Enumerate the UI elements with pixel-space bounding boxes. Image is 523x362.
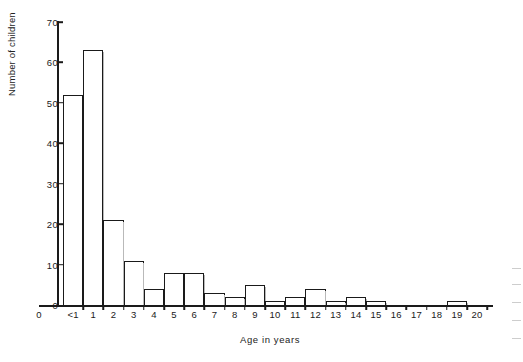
y-tick-mark: [58, 21, 63, 23]
histogram-bar: [144, 289, 164, 305]
x-tick-label: 9: [252, 309, 257, 320]
x-tick-label: 5: [171, 309, 176, 320]
histogram-bar: [164, 273, 184, 305]
histogram-bar: [245, 285, 265, 305]
x-tick-mark: [446, 305, 448, 310]
x-tick-mark: [406, 305, 408, 310]
x-tick-label: 10: [270, 309, 281, 320]
x-tick-mark: [426, 305, 428, 310]
x-tick-label: 4: [151, 309, 156, 320]
x-tick-mark: [183, 305, 185, 310]
x-tick-label: 3: [131, 309, 136, 320]
x-tick-mark: [123, 305, 125, 310]
x-tick-label: 8: [232, 309, 237, 320]
x-tick-mark: [305, 305, 307, 310]
x-tick-label: 19: [451, 309, 462, 320]
histogram-bar: [184, 273, 204, 305]
x-tick-label: 17: [411, 309, 422, 320]
x-tick-mark: [264, 305, 266, 310]
x-axis-title: Age in years: [240, 334, 300, 345]
histogram-bar: [124, 261, 144, 305]
histogram-bar: [285, 297, 305, 305]
x-tick-label: 1: [91, 309, 96, 320]
y-tick-mark: [58, 62, 63, 64]
histogram-bar: [366, 301, 386, 305]
y-tick-label: 70: [36, 17, 58, 28]
histogram-bar: [204, 293, 224, 305]
histogram-bar: [63, 95, 83, 305]
x-tick-label: 18: [431, 309, 442, 320]
histogram-bar: [103, 220, 123, 305]
x-tick-label: 16: [391, 309, 402, 320]
x-tick-label: 13: [330, 309, 341, 320]
x-tick-mark: [486, 305, 488, 310]
x-tick-mark: [204, 305, 206, 310]
plot-area: 0102030405060700<11234567891011121314151…: [0, 0, 523, 362]
histogram-bar: [346, 297, 366, 305]
histogram-bar: [265, 301, 285, 305]
x-tick-mark: [82, 305, 84, 310]
y-tick-label: 60: [36, 57, 58, 68]
x-tick-label: <1: [67, 309, 78, 320]
x-tick-mark: [284, 305, 286, 310]
x-tick-mark: [325, 305, 327, 310]
x-tick-label: 15: [371, 309, 382, 320]
x-tick-mark: [224, 305, 226, 310]
histogram-bar: [225, 297, 245, 305]
x-tick-label: 7: [212, 309, 217, 320]
x-tick-label: 12: [310, 309, 321, 320]
scan-page-edge-artifact: [507, 262, 523, 358]
x-tick-label: 11: [290, 309, 300, 320]
x-tick-mark: [466, 305, 468, 310]
histogram-bar: [326, 301, 346, 305]
histogram-bar: [305, 289, 325, 305]
y-tick-label: 10: [36, 259, 58, 270]
x-tick-mark: [385, 305, 387, 310]
x-tick-mark: [365, 305, 367, 310]
histogram-bar: [447, 301, 467, 305]
x-tick-mark: [345, 305, 347, 310]
y-tick-label: 20: [36, 219, 58, 230]
histogram-figure: Number of children 0102030405060700<1123…: [0, 0, 523, 362]
x-tick-mark: [103, 305, 105, 310]
x-tick-mark: [244, 305, 246, 310]
x-tick-label: 6: [192, 309, 197, 320]
y-tick-label: 50: [36, 97, 58, 108]
x-tick-label: 20: [472, 309, 483, 320]
y-tick-label: 30: [36, 178, 58, 189]
histogram-bar: [83, 50, 103, 305]
x-tick-label: 14: [350, 309, 361, 320]
x-tick-label-origin: 0: [36, 309, 41, 320]
y-tick-label: 40: [36, 138, 58, 149]
x-tick-label: 2: [111, 309, 116, 320]
x-tick-mark: [163, 305, 165, 310]
x-tick-mark: [143, 305, 145, 310]
